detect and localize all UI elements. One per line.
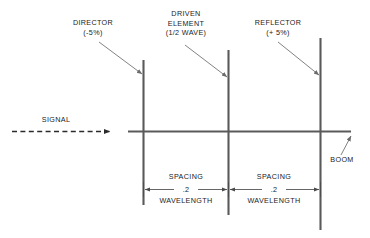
reflector-label-line-2: (+ 5%) [245,28,311,38]
reflector-label: REFLECTOR (+ 5%) [245,18,311,37]
spacing-left-bottom-label: WAVELENGTH [147,196,225,205]
spacing-right-value: .2 [259,185,289,194]
reflector-leader-line [278,42,319,75]
spacing-left-top-label: SPACING [151,172,221,181]
reflector-label-line-1: REFLECTOR [245,18,311,28]
signal-label: SIGNAL [33,115,79,124]
spacing-right-top-label: SPACING [239,172,309,181]
boom-label: BOOM [325,155,359,164]
director-label: DIRECTOR (-5%) [60,18,126,37]
driven-element-leader-line [185,45,227,77]
spacing-right-bottom-label: WAVELENGTH [235,196,313,205]
driven-element-label-line-1: DRIVEN [151,9,221,19]
spacing-left-value: .2 [171,185,201,194]
driven-element-label: DRIVEN ELEMENT (1/2 WAVE) [151,9,221,38]
leader-lines [99,42,351,155]
yagi-antenna-diagram: DIRECTOR (-5%) DRIVEN ELEMENT (1/2 WAVE)… [0,0,370,238]
director-leader-line [99,42,142,74]
driven-element-label-line-2: ELEMENT [151,19,221,29]
director-label-line-2: (-5%) [60,28,126,38]
boom-leader-line [341,136,351,155]
driven-element-label-line-3: (1/2 WAVE) [151,28,221,38]
director-label-line-1: DIRECTOR [60,18,126,28]
